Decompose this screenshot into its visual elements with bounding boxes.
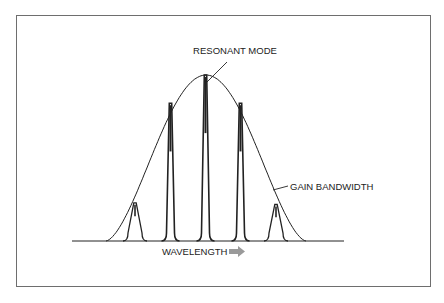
resonant-mode-label: RESONANT MODE	[193, 45, 277, 56]
laser-mode-diagram: RESONANT MODE GAIN BANDWIDTH WAVELENGTH	[0, 0, 444, 303]
resonant-modes	[123, 75, 288, 241]
wavelength-arrow-icon	[229, 246, 245, 257]
gain-bandwidth-leader-line	[273, 186, 288, 190]
wavelength-label: WAVELENGTH	[162, 246, 228, 257]
gain-bandwidth-label: GAIN BANDWIDTH	[290, 181, 374, 192]
diagram-canvas: RESONANT MODE GAIN BANDWIDTH WAVELENGTH	[0, 0, 444, 303]
